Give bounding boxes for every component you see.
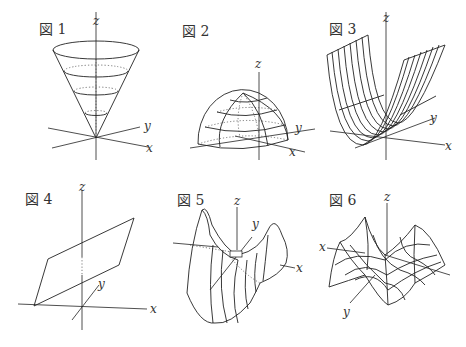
z-axis-label: z xyxy=(383,190,391,204)
x-axis-label: x xyxy=(296,261,303,275)
hemisphere-diagram: z y x xyxy=(155,0,315,175)
saddle-diagram: z y x xyxy=(160,175,320,347)
cone-diagram: z y x xyxy=(0,0,160,175)
plane-diagram: z y x xyxy=(0,175,170,347)
x-axis-label: x xyxy=(319,240,326,254)
figure-4-plane: 図 4 z y x xyxy=(0,175,170,347)
y-axis-label: y xyxy=(143,119,151,133)
figure-5-saddle: 図 5 z y x xyxy=(160,175,320,347)
y-axis-label: y xyxy=(429,111,437,125)
figure-3-parabolic-cylinder: 図 3 z y x xyxy=(305,0,466,175)
y-axis-label: y xyxy=(251,217,259,231)
z-axis-label: z xyxy=(382,11,390,25)
z-axis-label: z xyxy=(254,57,262,71)
z-axis-label: z xyxy=(233,194,241,208)
parabolic-cylinder-diagram: z y x xyxy=(305,0,466,175)
figure-2-hemisphere: 図 2 z y x xyxy=(155,0,315,175)
wave-surface-diagram: z x y xyxy=(305,175,466,347)
z-axis-label: z xyxy=(78,180,86,194)
figure-6-wave-surface: 図 6 z x y xyxy=(305,175,466,347)
z-axis-label: z xyxy=(92,14,100,28)
x-axis-label: x xyxy=(289,145,296,159)
y-axis-label: y xyxy=(342,305,350,319)
figure-1-cone: 図 1 z y x xyxy=(0,0,160,175)
x-axis-label: x xyxy=(445,139,452,153)
x-axis-label: x xyxy=(150,302,157,316)
y-axis-label: y xyxy=(97,277,105,291)
x-axis-label: x xyxy=(146,141,153,155)
y-axis-label: y xyxy=(294,121,302,135)
